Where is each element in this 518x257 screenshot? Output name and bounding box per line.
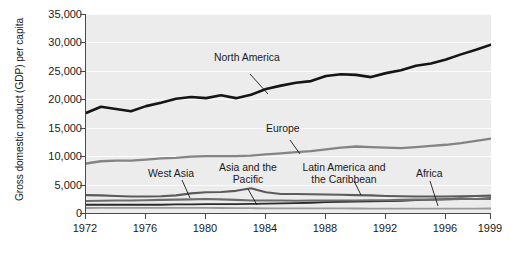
y-tick-label: 10,000 <box>22 150 82 162</box>
x-tick-mark <box>265 214 266 219</box>
annotation-asia-pacific-line1: Asia and the <box>219 162 277 173</box>
y-tick-label: 0 <box>22 207 82 219</box>
y-tick-label: 5,000 <box>22 179 82 191</box>
x-tick-mark <box>490 214 491 219</box>
y-tick-label: 20,000 <box>22 93 82 105</box>
x-tick-label: 1988 <box>295 222 355 234</box>
x-tick-mark <box>205 214 206 219</box>
x-tick-label: 1999 <box>460 222 518 234</box>
series-line-west-asia <box>86 188 491 196</box>
annotation-asia-pacific: Asia and the Pacific <box>213 162 283 185</box>
annotation-west-asia: West Asia <box>148 168 194 180</box>
y-tick-label: 35,000 <box>22 8 82 20</box>
x-tick-mark <box>385 214 386 219</box>
annotation-latin-america-line1: Latin America and <box>302 162 385 173</box>
x-tick-mark <box>85 214 86 219</box>
y-tick-label: 30,000 <box>22 36 82 48</box>
annotation-north-america: North America <box>214 52 280 64</box>
plot-area <box>85 14 491 214</box>
series-line-north-america <box>86 45 491 113</box>
series-line-latin-america-and-the-caribbean <box>86 199 491 201</box>
x-tick-label: 1984 <box>235 222 295 234</box>
series-line-africa <box>86 208 491 209</box>
x-tick-mark <box>145 214 146 219</box>
annotation-africa: Africa <box>416 168 443 180</box>
annotation-latin-america: Latin America and the Caribbean <box>298 162 390 185</box>
y-axis-title: Gross domestic product (GDP) per capita <box>14 0 25 225</box>
x-tick-label: 1972 <box>55 222 115 234</box>
gdp-per-capita-line-chart: Gross domestic product (GDP) per capita … <box>0 0 518 257</box>
x-tick-label: 1980 <box>175 222 235 234</box>
annotation-asia-pacific-line2: Pacific <box>233 174 264 185</box>
x-tick-mark <box>445 214 446 219</box>
y-tick-label: 25,000 <box>22 65 82 77</box>
y-tick-label: 15,000 <box>22 122 82 134</box>
x-tick-label: 1992 <box>355 222 415 234</box>
series-line-europe <box>86 139 491 164</box>
x-tick-mark <box>325 214 326 219</box>
annotation-latin-america-line2: the Caribbean <box>311 174 376 185</box>
series-lines <box>86 14 491 213</box>
annotation-europe: Europe <box>266 123 300 135</box>
x-tick-label: 1976 <box>115 222 175 234</box>
